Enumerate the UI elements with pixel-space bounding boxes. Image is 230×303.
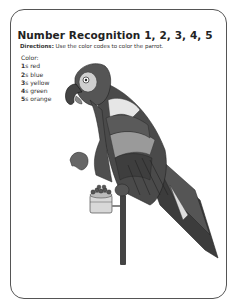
parrot-on-perch-icon [0, 0, 230, 303]
